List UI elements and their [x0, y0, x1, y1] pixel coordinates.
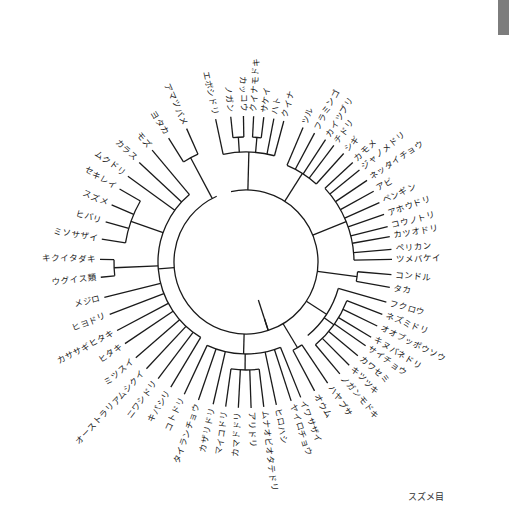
branch: [191, 158, 213, 199]
phylogenetic-tree: エボシドリノガンカッコウクイナモドキサケイハトクイナツルフラミンゴカイツブリチド…: [0, 0, 509, 523]
branch: [248, 152, 249, 190]
branch: [306, 301, 326, 314]
leaf-label: カラス: [113, 137, 140, 163]
branch: [352, 237, 389, 244]
branch: [309, 145, 334, 178]
leaf-label: キクイタダキ: [42, 253, 96, 264]
branch: [104, 283, 160, 297]
branch: [283, 324, 297, 348]
branch: [120, 189, 141, 201]
branch: [114, 266, 158, 268]
leaf-label: モズ: [135, 130, 154, 150]
branch: [261, 117, 264, 138]
branch: [274, 349, 291, 400]
branch: [303, 140, 325, 174]
leaf-label: コンドル: [395, 270, 432, 283]
branch: [169, 138, 184, 162]
branch: [226, 369, 231, 407]
leaf-label: エボシドリ: [201, 70, 220, 116]
legend-label: スズメ目: [408, 490, 444, 503]
branch: [280, 347, 300, 397]
leaf-label: ペリカン: [395, 240, 432, 253]
branch: [329, 331, 358, 355]
branch: [231, 117, 233, 138]
branch: [325, 162, 353, 188]
branch: [274, 121, 283, 156]
branch: [139, 162, 181, 202]
branch: [258, 300, 268, 330]
branch: [317, 271, 357, 276]
tree-branches: [100, 116, 392, 408]
leaf-label: メジロ: [73, 293, 102, 309]
branch: [152, 150, 189, 194]
branch: [238, 370, 240, 408]
leaf-label: カッコウ: [238, 76, 249, 112]
branch: [136, 320, 180, 358]
branch: [356, 281, 389, 287]
branch: [112, 205, 134, 214]
branch: [322, 338, 349, 365]
branch: [338, 288, 386, 302]
branch: [198, 349, 216, 400]
leaf-label: ノガン: [223, 85, 236, 113]
branch: [351, 227, 388, 236]
leaf-label: アマツバメ: [163, 82, 190, 127]
leaf-label: ヒバリ: [75, 208, 104, 225]
branch: [336, 180, 368, 201]
branch: [334, 324, 365, 346]
branch: [259, 369, 264, 407]
branch: [285, 173, 303, 201]
leaf-label: スズメ: [81, 188, 110, 208]
branch: [171, 337, 201, 387]
branch: [106, 222, 129, 229]
branch: [330, 170, 360, 194]
branch: [267, 119, 274, 154]
branch: [102, 239, 126, 243]
leaf-label: アリドリ: [247, 412, 258, 448]
branch: [131, 221, 163, 232]
branch: [216, 119, 223, 154]
branch: [347, 301, 382, 315]
branch: [158, 268, 174, 269]
clade-arc: [174, 190, 318, 334]
branch: [146, 326, 186, 368]
leaf-label: タカ: [393, 283, 412, 296]
branch: [158, 332, 193, 378]
leaf-label: クイナ: [280, 90, 297, 119]
branch: [128, 176, 175, 210]
branch: [256, 137, 257, 152]
leaf-label: オウム: [312, 392, 334, 421]
branch: [184, 345, 207, 394]
branch: [213, 352, 225, 405]
branch: [101, 276, 115, 277]
branch: [244, 334, 245, 354]
branch: [187, 129, 198, 155]
leaf-label: カマドドリ: [230, 412, 242, 457]
branch: [250, 370, 251, 408]
branch: [324, 318, 334, 325]
branch: [238, 137, 239, 152]
clade-arc: [158, 195, 201, 338]
branch: [125, 311, 173, 343]
leaf-label: ヨタカ: [148, 109, 171, 137]
branch: [348, 214, 384, 226]
leaf-label: ツメバケイ: [396, 253, 441, 264]
leaf-label: ヒヨドリ: [70, 311, 107, 333]
branch: [302, 345, 328, 383]
branch: [354, 249, 392, 252]
branch: [253, 116, 254, 137]
branch: [358, 272, 392, 275]
branch: [117, 303, 168, 330]
leaf-label: マイコドリ: [213, 410, 229, 456]
branch: [313, 222, 346, 235]
leaf-label: ヒロハシ: [273, 408, 290, 445]
branch: [354, 259, 392, 260]
leaf-label: ウグイス類: [51, 272, 97, 287]
leaf-label: ミソサザイ: [53, 226, 99, 243]
leaf-label: ヒタキ: [96, 341, 124, 364]
branch: [316, 154, 343, 184]
branch: [265, 352, 276, 405]
branch: [110, 294, 164, 315]
